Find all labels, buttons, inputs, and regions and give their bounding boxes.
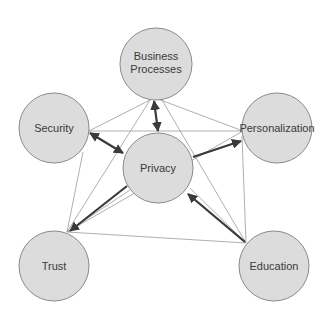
edge-business-security [89, 99, 152, 131]
node-personalization: Personalization [239, 93, 314, 163]
node-education: Education [239, 231, 309, 301]
node-label: Privacy [140, 162, 177, 174]
diagram-canvas: Business Processes Security Personalizat… [0, 0, 330, 316]
edge-security-trust [67, 152, 83, 232]
arrow-education-privacy [188, 194, 245, 242]
arrow-privacy-trust [70, 186, 127, 231]
arrow-privacy-personalization [193, 141, 241, 157]
arrow-business-privacy [154, 101, 158, 131]
edge-trust-education [67, 232, 246, 243]
node-label: Business [134, 50, 179, 62]
node-label: Trust [42, 260, 67, 272]
node-business-processes: Business Processes [120, 28, 192, 100]
arrow-security-privacy [90, 133, 123, 153]
node-privacy: Privacy [123, 133, 193, 203]
node-security: Security [19, 93, 89, 163]
node-label: Processes [130, 63, 182, 75]
node-label: Security [34, 122, 74, 134]
node-trust: Trust [19, 231, 89, 301]
node-label: Personalization [239, 122, 314, 134]
node-label: Education [250, 260, 299, 272]
edge-personalization-education [242, 136, 246, 243]
